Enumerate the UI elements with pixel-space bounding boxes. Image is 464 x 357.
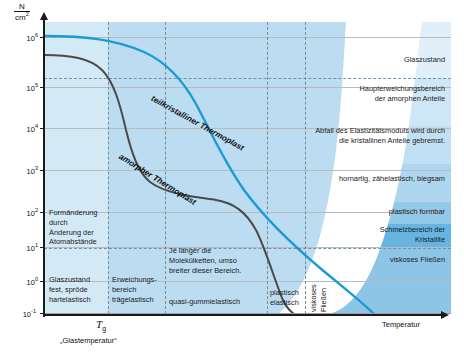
y-tick-label-10e5: 105: [10, 82, 38, 93]
y-tick-label-10e0: 100: [10, 276, 38, 287]
y-tick-mark-10e3: [40, 170, 44, 171]
x-axis-title: Temperatur: [382, 320, 420, 329]
y-tick-mark-10e4: [40, 128, 44, 129]
annotation-haupterweichungsbereich: Haupterweichungsbereich der amorphen Ant…: [215, 84, 445, 104]
annotation-molekuelketten: Je länger die Molekülketten, umso breite…: [169, 246, 265, 275]
y-tick-label-10e6: 106: [10, 32, 38, 43]
tg-label: Tg: [96, 318, 106, 332]
y-tick-mark-10e2: [40, 212, 44, 213]
y-axis-arrow: [40, 12, 48, 20]
y-tick-mark-10e-1: [40, 313, 44, 314]
y-tick-mark-10e0: [40, 281, 44, 282]
y-tick-mark-10e6: [40, 37, 44, 38]
y-tick-label-10e3: 103: [10, 165, 38, 176]
annotation-quasi-gummielastisch: quasi-gummielastisch: [169, 297, 269, 307]
y-tick-mark-10e1: [40, 247, 44, 248]
plot-area: teilkristalliner Thermoplast amorpher Th…: [44, 22, 451, 314]
annotation-viskoses-fliessen: viskoses Fließen: [245, 255, 445, 265]
y-tick-mark-10e5: [40, 87, 44, 88]
annotation-fliessen-vertical: Fließen: [319, 288, 328, 312]
y-tick-label-10e-1: 10-1: [8, 308, 36, 319]
annotation-glaszustand: Glaszustand: [245, 55, 445, 65]
y-axis-title-denominator: cm2: [14, 12, 30, 22]
annotation-formaenderung: Formänderung durch Änderung der Atomabst…: [49, 208, 109, 247]
annotation-plastisch-elastisch: plastisch elastisch: [270, 288, 306, 308]
x-axis-line: [43, 314, 445, 316]
annotation-erweichungsbereich: Erweichungs- bereich trägelastisch: [112, 275, 167, 304]
y-tick-label-10e1: 101: [10, 242, 38, 253]
y-tick-label-10e2: 102: [10, 207, 38, 218]
y-axis-line: [43, 18, 45, 317]
annotation-plastisch-formbar: plastisch formbar: [245, 207, 445, 217]
tg-caption: „Glastemperatur“: [60, 336, 117, 345]
annotation-hornartig: hornartig, zähelastisch, biegsam: [185, 174, 445, 184]
annotation-abfall-elastizitaetsmodul: Abfall des Elastizitätsmoduls wird durch…: [185, 126, 445, 146]
annotation-viskoses-vertical: viskoses: [309, 284, 318, 312]
annotation-schmelzbereich-kristallite: Schmelzbereich der Kristallite: [245, 225, 445, 245]
y-axis-title: N cm2: [14, 3, 30, 22]
annotation-glaszustand-fest: Glaszustand fest, spröde hartelastisch: [49, 275, 109, 304]
y-tick-label-10e4: 104: [10, 123, 38, 134]
x-axis-arrow: [441, 311, 449, 319]
polymer-modulus-temperature-diagram: teilkristalliner Thermoplast amorpher Th…: [0, 0, 464, 357]
